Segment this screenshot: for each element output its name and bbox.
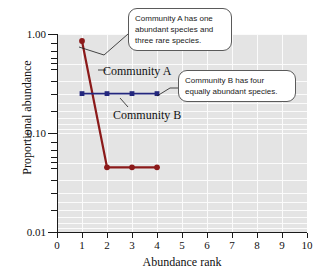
x-tick (232, 233, 233, 238)
y-tick-minor (51, 142, 57, 143)
y-tick-minor (51, 193, 57, 194)
x-tick-label: 8 (247, 240, 267, 251)
x-tick-label: 3 (122, 240, 142, 251)
x-tick (257, 233, 258, 238)
gridline-horizontal (57, 118, 307, 119)
y-tick-major (48, 232, 57, 233)
gridline-horizontal (57, 193, 307, 194)
gridline-horizontal (57, 111, 307, 112)
y-tick-minor (51, 150, 57, 151)
y-tick-minor (51, 43, 57, 44)
y-tick-minor (51, 51, 57, 52)
y-axis-line (57, 34, 58, 233)
y-tick-label: 0.01 (27, 227, 46, 238)
gridline-horizontal (57, 103, 307, 104)
y-tick-label: 1.00 (27, 29, 46, 40)
x-tick (157, 233, 158, 238)
y-tick-minor (51, 162, 57, 163)
x-tick (82, 233, 83, 238)
gridline-horizontal (57, 64, 307, 65)
series-label-community-a: Community A (103, 64, 171, 79)
figure-container: 1.00 0.10 0.01 0 1 2 3 4 5 6 7 8 9 10 Pr… (0, 0, 313, 275)
gridline-horizontal (57, 129, 307, 130)
y-tick-major (48, 34, 57, 35)
y-tick-minor (51, 94, 57, 95)
x-tick-label: 0 (47, 240, 67, 251)
y-tick-minor (51, 210, 57, 211)
x-tick-label: 4 (147, 240, 167, 251)
callout-community-a: Community A has one abundant species and… (128, 8, 232, 51)
x-tick-label: 5 (172, 240, 192, 251)
x-tick-label: 10 (297, 240, 313, 251)
y-tick-major (48, 133, 57, 134)
x-tick-label: 2 (97, 240, 117, 251)
x-axis-title: Abundance rank (57, 255, 307, 270)
gridline-horizontal (57, 217, 307, 218)
x-tick-label: 9 (272, 240, 292, 251)
series-label-community-b: Community B (113, 108, 181, 123)
gridline-horizontal (57, 133, 307, 134)
y-tick-minor (51, 81, 57, 82)
x-tick (132, 233, 133, 238)
y-tick-minor (51, 157, 57, 158)
y-tick-minor (51, 111, 57, 112)
y-tick-minor (51, 180, 57, 181)
gridline-horizontal (57, 163, 307, 164)
y-tick-minor (51, 63, 57, 64)
y-axis-title: Proportional abundance (20, 48, 35, 188)
x-tick-label: 1 (72, 240, 92, 251)
y-tick-minor (51, 168, 57, 169)
gridline-horizontal (57, 210, 307, 211)
gridline-horizontal (57, 223, 307, 224)
x-tick (182, 233, 183, 238)
x-tick-label: 7 (222, 240, 242, 251)
gridline-horizontal (57, 228, 307, 229)
x-tick (57, 233, 58, 238)
callout-community-b: Community B has four equally abundant sp… (178, 70, 296, 102)
x-tick (307, 233, 308, 238)
y-tick-minor (51, 69, 57, 70)
y-tick-minor (51, 58, 57, 59)
x-tick-label: 6 (197, 240, 217, 251)
x-tick (207, 233, 208, 238)
x-tick (282, 233, 283, 238)
gridline-horizontal (57, 202, 307, 203)
x-tick (107, 233, 108, 238)
gridline-horizontal (57, 180, 307, 181)
plot-area (57, 34, 307, 232)
gridline-horizontal (57, 124, 307, 125)
